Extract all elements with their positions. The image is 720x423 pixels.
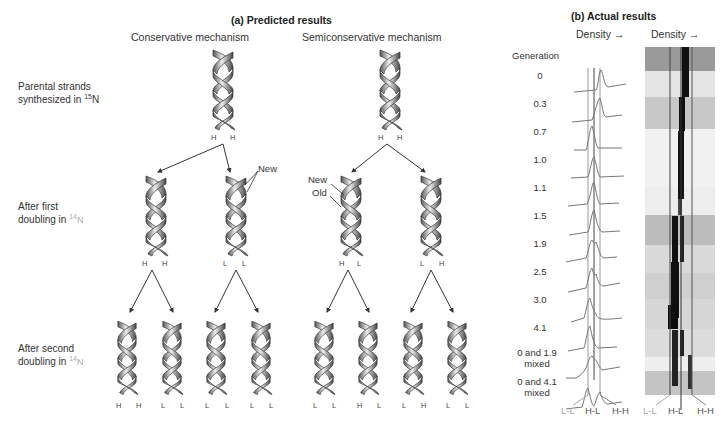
generation-label: 4.1 — [515, 322, 565, 333]
annotation-new-semi: New — [308, 174, 327, 185]
annotation-new-conservative: New — [258, 163, 277, 174]
strand-label: H — [421, 401, 426, 410]
generation-label: 1.9 — [515, 238, 565, 249]
strand-label: H — [230, 133, 235, 142]
density-label-trace: Density → — [576, 28, 624, 40]
strand-label: L — [465, 401, 469, 410]
density-label-gel: Density → — [651, 28, 699, 40]
strand-label: L — [313, 401, 317, 410]
axis-label-hh-trace: H-H — [612, 405, 629, 416]
gel-image — [645, 47, 715, 410]
helix-semi-gen0 — [380, 50, 402, 130]
strand-label: L — [269, 401, 273, 410]
strand-label: H — [136, 401, 141, 410]
strand-label: H — [142, 259, 147, 268]
strand-label: L — [402, 401, 406, 410]
helix-semi-gen1-a — [341, 176, 363, 256]
generation-label-mixed-1: 0 and 1.9 mixed — [507, 347, 567, 369]
strand-label: L — [420, 259, 424, 268]
axis-label-hh-gel: H-H — [697, 405, 714, 416]
strand-label: H — [357, 401, 362, 410]
strand-label: H — [439, 259, 444, 268]
generation-label-line2: mixed — [507, 387, 567, 398]
helix-conservative-gen0 — [213, 50, 235, 130]
density-traces — [566, 68, 626, 409]
helix-semi-gen2-4 — [448, 321, 468, 394]
strand-label: L — [225, 401, 229, 410]
generation-label: 0.7 — [515, 126, 565, 137]
generation-label: 0 — [515, 70, 565, 81]
helix-conservative-gen2-1 — [118, 321, 138, 394]
annotation-old-semi: Old — [312, 187, 327, 198]
strand-label: L — [242, 259, 246, 268]
strand-label: H — [116, 401, 121, 410]
helix-semi-gen1-b — [421, 176, 443, 256]
panel-b-title: (b) Actual results — [571, 10, 656, 22]
strand-label: L — [161, 401, 165, 410]
generation-label: 1.0 — [515, 154, 565, 165]
strand-label: L — [377, 401, 381, 410]
strand-label: L — [180, 401, 184, 410]
generation-label: 1.5 — [515, 210, 565, 221]
generation-label-line1: 0 and 4.1 — [507, 376, 567, 387]
generation-label: 1.1 — [515, 182, 565, 193]
helix-semi-gen2-2 — [359, 321, 379, 394]
strand-label: H — [211, 133, 216, 142]
axis-label-hl-gel: H-L — [668, 405, 683, 416]
helix-conservative-gen2-3 — [207, 321, 227, 394]
strand-label: H — [162, 259, 167, 268]
generation-label: 0.3 — [515, 98, 565, 109]
strand-label: H — [378, 133, 383, 142]
strand-label: L — [446, 401, 450, 410]
generation-header: Generation — [512, 50, 559, 61]
generation-label-line1: 0 and 1.9 — [507, 347, 567, 358]
strand-label: L — [205, 401, 209, 410]
helix-conservative-gen1-b — [226, 176, 248, 256]
strand-label: H — [339, 259, 344, 268]
axis-label-hl-trace: H-L — [585, 405, 600, 416]
strand-label: L — [332, 401, 336, 410]
helix-conservative-gen1-a — [146, 176, 168, 256]
strand-label: L — [250, 401, 254, 410]
axis-label-ll-trace: L-L — [561, 405, 575, 416]
generation-label: 2.5 — [515, 266, 565, 277]
helix-semi-gen2-1 — [315, 321, 335, 394]
strand-label: L — [357, 259, 361, 268]
generation-label-mixed-2: 0 and 4.1 mixed — [507, 376, 567, 398]
helix-conservative-gen2-4 — [252, 321, 272, 394]
dna-diagram-graphics — [0, 0, 720, 423]
strand-label: L — [223, 259, 227, 268]
axis-label-ll-gel: L-L — [643, 405, 657, 416]
helix-conservative-gen2-2 — [163, 321, 183, 394]
generation-label-line2: mixed — [507, 358, 567, 369]
strand-label: H — [397, 133, 402, 142]
generation-label: 3.0 — [515, 294, 565, 305]
helix-semi-gen2-3 — [404, 321, 424, 394]
